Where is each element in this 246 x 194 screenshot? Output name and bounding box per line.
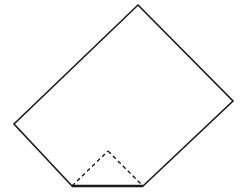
folded-paper-diagram — [0, 0, 246, 194]
